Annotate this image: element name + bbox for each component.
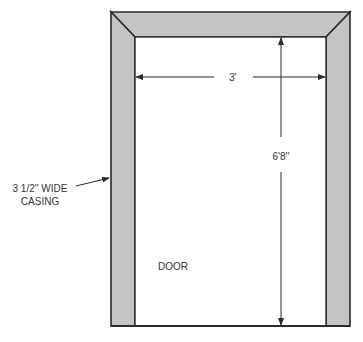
casing-right bbox=[326, 12, 350, 326]
casing-top bbox=[111, 12, 350, 37]
casing-label-line1: 3 1/2'' WIDE bbox=[13, 183, 68, 194]
casing-callout-arrow bbox=[76, 178, 109, 186]
casing-left bbox=[111, 12, 135, 326]
door-casing-diagram: 3' 6'8'' 3 1/2'' WIDE CASING DOOR bbox=[0, 0, 363, 342]
door-label: DOOR bbox=[158, 261, 188, 272]
casing-label-line2: CASING bbox=[21, 196, 60, 207]
width-label: 3' bbox=[229, 72, 237, 83]
height-label: 6'8'' bbox=[273, 151, 290, 162]
